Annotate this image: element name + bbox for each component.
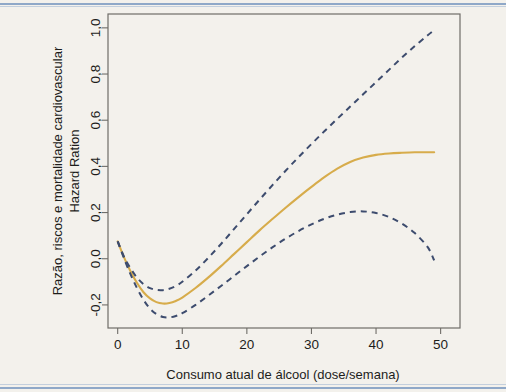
x-tick-label-40: 40 (369, 337, 384, 352)
x-tick-label-30: 30 (304, 337, 319, 352)
plot-border (108, 14, 460, 328)
x-axis-title: Consumo atual de álcool (dose/semana) (166, 367, 399, 382)
figure-container: 01020304050 -0,20,00,20,40,60,81,0 Consu… (0, 0, 506, 392)
y-axis-title-line-1: Razão, riscos e mortalidade cardiovascul… (50, 46, 65, 295)
x-tick-label-0: 0 (114, 337, 122, 352)
x-tick-label-50: 50 (433, 337, 448, 352)
series-line-1 (118, 30, 434, 290)
y-tick-label--0,2: -0,2 (88, 293, 103, 316)
x-tick-label-10: 10 (175, 337, 190, 352)
y-tick-label-0,2: 0,2 (88, 203, 103, 222)
y-axis-ticks (102, 28, 108, 305)
series-line-2 (118, 211, 434, 317)
x-axis-ticks (118, 328, 441, 334)
y-tick-label-0,0: 0,0 (88, 249, 103, 268)
y-tick-label-0,4: 0,4 (88, 157, 103, 176)
hazard-ratio-line-chart: 01020304050 -0,20,00,20,40,60,81,0 Consu… (0, 0, 506, 392)
y-axis-tick-labels: -0,20,00,20,40,60,81,0 (88, 18, 103, 316)
plot-frame (108, 14, 460, 328)
y-tick-label-0,6: 0,6 (88, 111, 103, 130)
y-tick-label-1,0: 1,0 (88, 18, 103, 37)
x-tick-label-20: 20 (239, 337, 254, 352)
series-layer (118, 30, 434, 317)
x-axis-tick-labels: 01020304050 (114, 337, 448, 352)
series-line-0 (118, 152, 434, 303)
y-tick-label-0,8: 0,8 (88, 65, 103, 84)
y-axis-title-line-2: Hazard Ration (67, 129, 82, 212)
